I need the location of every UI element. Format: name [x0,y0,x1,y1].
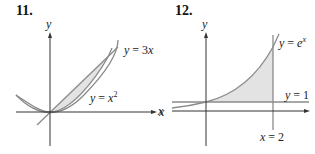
graph-12: y x y = ex y = 1 x = 2 [157,17,310,146]
label-y-x2: y = x2 [89,90,117,105]
x-axis-label-12: x [157,104,164,118]
label-x-2: x = 2 [259,130,284,144]
figure-canvas: y x y = 3x y = x2 y x y = ex y = 1 x = 2 [0,0,315,154]
label-y-1: y = 1 [284,88,309,102]
y-axis-label-12: y [201,17,208,31]
shaded-region-12 [206,47,273,102]
graph-11: y x y = 3x y = x2 [16,17,165,146]
y-axis-arrow-icon [48,32,52,38]
x-axis-arrow-icon [304,109,310,113]
label-y-ex: y = ex [278,35,306,50]
line-y-3x [37,47,118,125]
y-axis-label-11: y [45,17,52,31]
y-axis-arrow-icon [204,32,208,38]
x-axis-arrow-icon [151,110,157,114]
label-y-3x: y = 3x [123,43,154,57]
